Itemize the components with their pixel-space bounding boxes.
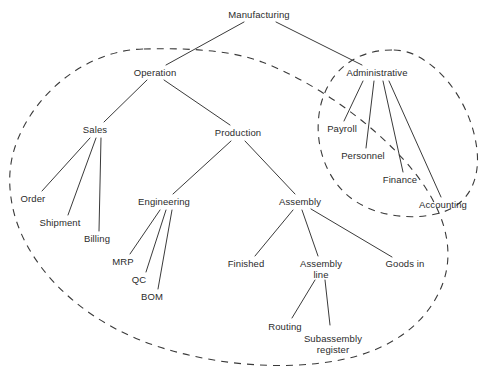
edge-sales-billing	[99, 138, 101, 231]
edge-assembly-line-routing	[292, 280, 315, 318]
node-personnel[interactable]: Personnel	[341, 150, 385, 161]
node-assembly-line[interactable]: Assembly line	[300, 258, 342, 280]
node-payroll[interactable]: Payroll	[327, 123, 357, 134]
node-qc[interactable]: QC	[132, 274, 146, 285]
node-operation[interactable]: Operation	[134, 67, 177, 78]
node-routing[interactable]: Routing	[268, 321, 301, 332]
node-manufacturing[interactable]: Manufacturing	[228, 9, 290, 20]
node-billing[interactable]: Billing	[84, 233, 110, 244]
edge-engineering-mrp	[130, 210, 160, 254]
node-mrp[interactable]: MRP	[112, 256, 133, 267]
node-finance[interactable]: Finance	[383, 174, 418, 185]
operation-boundary	[10, 49, 448, 366]
edge-assembly-finished	[255, 210, 293, 256]
edge-administrative-personnel	[366, 81, 374, 148]
edge-assembly-assembly-line	[302, 210, 318, 256]
org-hierarchy-diagram: Manufacturing Operation Administrative S…	[0, 0, 488, 385]
node-engineering[interactable]: Engineering	[138, 196, 190, 207]
edge-sales-order	[42, 138, 90, 191]
node-assembly[interactable]: Assembly	[279, 196, 321, 207]
node-shipment[interactable]: Shipment	[40, 217, 81, 228]
node-goods-in[interactable]: Goods in	[386, 258, 425, 269]
node-finished[interactable]: Finished	[228, 258, 265, 269]
edge-assembly-line-subassembly	[325, 280, 330, 325]
edge-sales-shipment	[68, 138, 96, 215]
edge-manufacturing-operation	[166, 22, 244, 65]
node-administrative[interactable]: Administrative	[346, 67, 407, 78]
edge-assembly-goods-in	[311, 209, 392, 257]
edge-manufacturing-administrative	[276, 22, 362, 65]
edge-production-assembly	[245, 141, 295, 194]
edge-engineering-bom	[158, 210, 172, 289]
edge-production-engineering	[173, 141, 231, 194]
node-order[interactable]: Order	[21, 193, 46, 204]
node-sales[interactable]: Sales	[83, 124, 107, 135]
edge-administrative-finance	[383, 81, 403, 172]
node-bom[interactable]: BOM	[141, 291, 163, 302]
edge-administrative-payroll	[344, 81, 363, 121]
group-boundaries	[10, 49, 478, 366]
node-accounting[interactable]: Accounting	[419, 199, 467, 210]
node-subassembly-register[interactable]: Subassembly register	[304, 333, 362, 355]
node-production[interactable]: Production	[215, 127, 261, 138]
diagram-canvas	[0, 0, 488, 385]
edge-operation-production	[164, 80, 230, 125]
edge-operation-sales	[104, 80, 147, 122]
